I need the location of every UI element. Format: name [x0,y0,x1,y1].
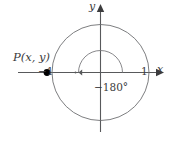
point-p-label: P(x, y) [13,52,50,64]
angle-arc-arrowhead [79,69,83,75]
unit-circle-figure: P(x, y) −1 1 x y −180° [0,0,170,142]
x-axis-label: x [157,64,163,75]
y-axis-label: y [89,1,95,12]
x-tick-label-negative-one: −1 [38,66,53,77]
x-tick-label-one: 1 [141,66,148,77]
arc-start-tick [75,72,77,74]
angle-measure-label: −180° [94,82,128,93]
y-axis-arrowhead [97,4,104,12]
